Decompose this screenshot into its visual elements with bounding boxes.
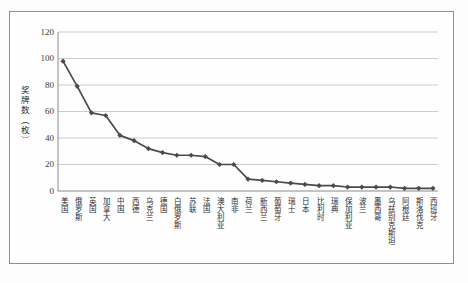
x-axis-category-label: 日本 [300, 197, 310, 213]
x-axis-category-label: 苏联 [186, 197, 196, 213]
x-axis-category-label: 乌克兰 [143, 197, 153, 221]
data-point-marker [388, 184, 393, 189]
x-axis-category-label: 葡萄牙 [271, 197, 281, 221]
medal-count-series-line [63, 61, 433, 188]
x-axis-category-label: 白俄罗斯 [172, 197, 182, 229]
x-axis-category-label: 新西兰 [257, 197, 267, 221]
scanned-page-background: 奖牌数（枚） 020406080100120 美国俄罗斯英国加拿大中国西德乌克兰… [0, 0, 468, 283]
x-axis-category-label: 保加利亚 [343, 197, 353, 229]
x-axis-category-label: 斯洛伐克 [414, 197, 424, 229]
x-axis-category-label: 中国 [115, 197, 125, 213]
x-axis-category-label: 瑞典 [328, 197, 338, 213]
y-axis-tick-label: 60 [20, 107, 54, 116]
y-axis-tick-label: 0 [20, 187, 54, 196]
x-axis-category-label: 法国 [200, 197, 210, 213]
x-axis-category-label: 英国 [86, 197, 96, 213]
x-axis-category-label: 波兰 [357, 197, 367, 213]
data-point-marker [302, 182, 307, 187]
data-point-marker [317, 183, 322, 188]
x-axis-category-label: 阿根廷 [400, 197, 410, 221]
x-axis-category-label: 荷兰 [243, 197, 253, 213]
x-axis-category-label: 瑞士 [286, 197, 296, 213]
x-axis-category-label: 美国 [58, 197, 68, 213]
data-point-marker [345, 184, 350, 189]
x-axis-category-label: 俄罗斯 [72, 197, 82, 221]
data-point-marker [359, 184, 364, 189]
data-point-marker [260, 178, 265, 183]
y-axis-tick-label: 100 [20, 54, 54, 63]
x-axis-category-label: 墨西哥 [371, 197, 381, 221]
x-axis-category-label: 乌兹别克斯坦 [385, 197, 395, 245]
x-axis-category-label: 西德 [129, 197, 139, 213]
y-axis-tick-label: 20 [20, 160, 54, 169]
y-axis-tick-label: 80 [20, 81, 54, 90]
data-point-marker [430, 186, 435, 191]
chart-frame: 奖牌数（枚） 020406080100120 美国俄罗斯英国加拿大中国西德乌克兰… [9, 11, 454, 264]
x-axis-category-label: 西班牙 [428, 197, 438, 221]
x-axis-category-label: 南非 [229, 197, 239, 213]
data-point-marker [402, 186, 407, 191]
data-point-marker [188, 153, 193, 158]
data-point-marker [274, 179, 279, 184]
data-point-marker [174, 153, 179, 158]
data-point-marker [331, 183, 336, 188]
x-axis-category-label: 德国 [158, 197, 168, 213]
data-point-marker [288, 180, 293, 185]
data-point-marker [160, 150, 165, 155]
x-axis-category-label: 澳大利亚 [215, 197, 225, 229]
x-axis-category-label: 比利时 [314, 197, 324, 221]
data-point-marker [373, 184, 378, 189]
x-axis-category-label: 加拿大 [101, 197, 111, 221]
y-axis-tick-label: 120 [20, 28, 54, 37]
y-axis-tick-label: 40 [20, 134, 54, 143]
data-point-marker [416, 186, 421, 191]
